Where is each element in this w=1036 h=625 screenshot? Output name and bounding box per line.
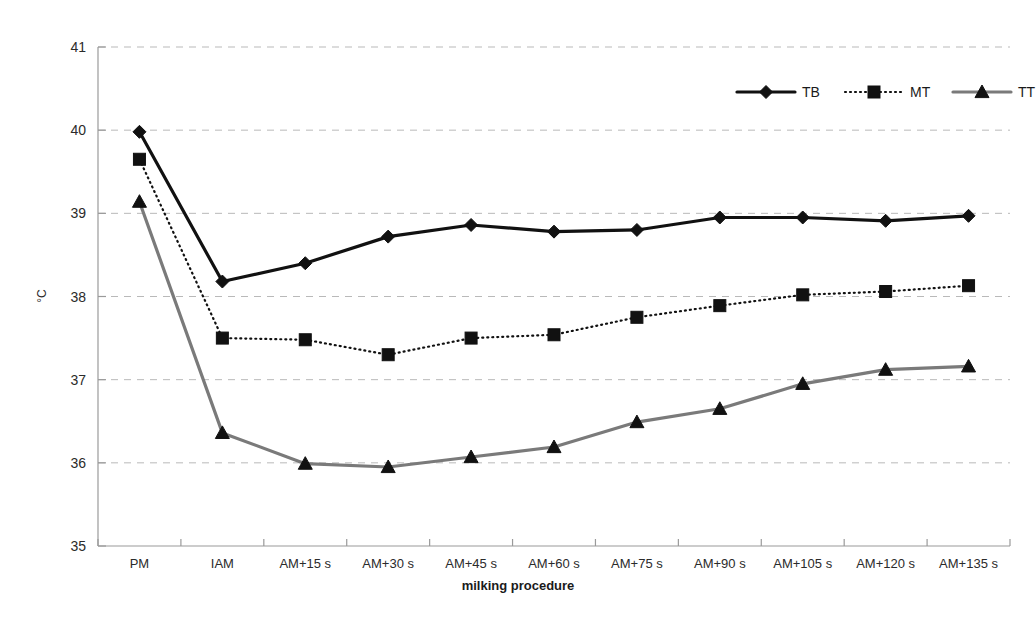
data-point-square (631, 311, 643, 323)
chart-background (0, 0, 1036, 625)
x-tick-label: AM+120 s (856, 556, 915, 571)
data-point-square (133, 153, 145, 165)
y-tick-label: 41 (70, 39, 86, 55)
data-point-square (299, 334, 311, 346)
data-point-square (797, 289, 809, 301)
x-tick-label: IAM (211, 556, 234, 571)
x-axis-title: milking procedure (462, 578, 575, 593)
data-point-square (868, 86, 880, 98)
y-tick-label: 37 (70, 372, 86, 388)
x-tick-label: PM (130, 556, 150, 571)
x-tick-label: AM+15 s (279, 556, 331, 571)
x-tick-label: AM+90 s (694, 556, 746, 571)
y-tick-label: 36 (70, 455, 86, 471)
y-tick-label: 38 (70, 289, 86, 305)
x-tick-label: AM+30 s (362, 556, 414, 571)
x-tick-label: AM+75 s (611, 556, 663, 571)
data-point-square (216, 332, 228, 344)
legend-label-tt: TT (1018, 84, 1036, 100)
legend-label-mt: MT (910, 84, 931, 100)
data-point-square (714, 300, 726, 312)
data-point-square (465, 332, 477, 344)
data-point-square (382, 349, 394, 361)
x-tick-label: AM+135 s (939, 556, 998, 571)
y-axis-title: °C (35, 289, 49, 303)
y-tick-label: 39 (70, 205, 86, 221)
legend-label-tb: TB (802, 84, 820, 100)
data-point-square (963, 280, 975, 292)
y-tick-label: 40 (70, 122, 86, 138)
chart-container: 35363738394041 PMIAMAM+15 sAM+30 sAM+45 … (0, 0, 1036, 625)
x-tick-label: AM+60 s (528, 556, 580, 571)
data-point-square (548, 329, 560, 341)
line-chart: 35363738394041 PMIAMAM+15 sAM+30 sAM+45 … (0, 0, 1036, 625)
x-tick-label: AM+105 s (773, 556, 832, 571)
data-point-square (880, 286, 892, 298)
x-tick-label: AM+45 s (445, 556, 497, 571)
y-tick-label: 35 (70, 538, 86, 554)
